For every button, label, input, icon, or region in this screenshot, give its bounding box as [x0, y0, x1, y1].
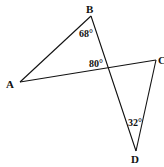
point-label-b: B [86, 3, 94, 15]
point-label-c: C [158, 54, 164, 66]
geometry-diagram: A B C D 68° 80° 32° [0, 0, 164, 167]
angle-label-d: 32° [128, 117, 142, 128]
angle-label-b: 68° [79, 28, 93, 39]
segment-bd [91, 16, 136, 151]
point-label-d: D [131, 153, 139, 165]
point-label-a: A [6, 78, 14, 90]
segment-cd [136, 60, 156, 151]
angle-label-intersection: 80° [89, 58, 103, 69]
